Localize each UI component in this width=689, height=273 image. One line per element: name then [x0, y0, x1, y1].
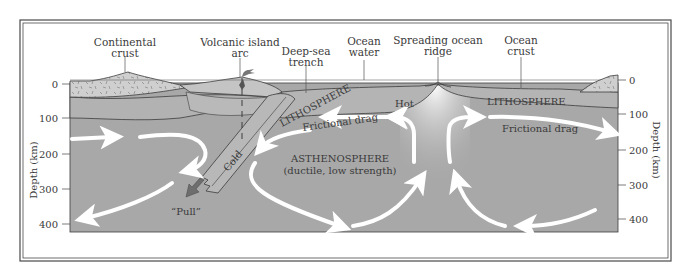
label-hot: Hot [395, 98, 414, 109]
label-deep-sea-trench-2: trench [289, 56, 324, 68]
label-pull: “Pull” [171, 206, 201, 217]
label-ocean-water-2: water [349, 46, 381, 58]
tick-right-300: 300 [629, 180, 648, 191]
label-asthenosphere: ASTHENOSPHERE [290, 153, 389, 164]
axis-title-right: Depth (km) [651, 121, 662, 178]
tick-left-0: 0 [52, 79, 58, 90]
axis-title-left: Depth (km) [28, 141, 39, 198]
tick-right-200: 200 [629, 145, 648, 156]
plate-tectonics-diagram: Continental crust Volcanic island arc De… [0, 0, 689, 273]
label-frictional-drag-right: Frictional drag [502, 123, 579, 134]
label-lithosphere-right: LITHOSPHERE [487, 96, 566, 107]
label-asthenosphere-sub: (ductile, low strength) [283, 165, 396, 176]
tick-left-100: 100 [39, 113, 58, 124]
tick-right-100: 100 [629, 109, 648, 120]
label-ocean-crust-2: crust [507, 45, 535, 57]
tick-left-300: 300 [39, 184, 58, 195]
label-volcanic-arc-2: arc [231, 47, 248, 59]
tick-left-200: 200 [39, 149, 58, 160]
tick-right-0: 0 [629, 75, 635, 86]
tick-right-400: 400 [629, 214, 648, 225]
label-continental-crust-2: crust [111, 47, 139, 59]
label-spreading-ridge-2: ridge [424, 45, 452, 57]
tick-left-400: 400 [39, 219, 58, 230]
